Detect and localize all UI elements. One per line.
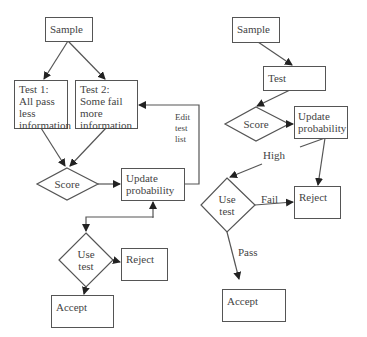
reject-label: Reject <box>299 191 327 203</box>
arrow-high-usetest <box>230 164 262 177</box>
test2-line3: more <box>80 107 133 119</box>
test2-line4: information <box>80 119 133 131</box>
update-line2: probability <box>126 184 180 196</box>
usetest-label-left: Use test <box>68 248 104 272</box>
high-label: High <box>263 149 285 161</box>
update-line1: Update <box>126 172 180 184</box>
usetest-label-right: Use test <box>209 193 245 217</box>
update-line1: Update <box>298 110 343 122</box>
arrow-update-usetest <box>86 217 153 231</box>
test1-line1: Test 1: <box>19 83 63 95</box>
score-label-left: Score <box>47 178 87 190</box>
sample-box-left: Sample <box>45 17 93 42</box>
update-box-left: Update probability <box>121 168 185 201</box>
arrow-sample-test2 <box>68 41 105 79</box>
accept-box-right: Accept <box>222 289 286 322</box>
arrow-usetest-reject <box>113 260 120 262</box>
pass-label: Pass <box>238 246 258 258</box>
update-box-right: Update probability <box>294 106 348 139</box>
test1-line3: less <box>19 107 63 119</box>
arrow-test1-score <box>41 128 65 166</box>
arrow-update-reject-right <box>318 138 325 185</box>
arrow-sample-test1 <box>44 41 68 79</box>
score-label-right: Score <box>236 118 276 130</box>
reject-label: Reject <box>126 253 154 265</box>
test2-line1: Test 2: <box>80 83 133 95</box>
test-box-right: Test <box>263 66 326 91</box>
test2-line2: Some fail <box>80 95 133 107</box>
arrow-usetest-accept <box>84 287 86 294</box>
test1-line4: information <box>19 119 63 131</box>
reject-box-right: Reject <box>294 186 341 219</box>
test-label: Test <box>268 72 286 84</box>
arrow-sample-test-right <box>258 42 292 65</box>
arrow-test2-score <box>70 128 106 166</box>
accept-label: Accept <box>227 295 258 307</box>
accept-label: Accept <box>56 301 87 313</box>
update-line2: probability <box>298 122 343 134</box>
sample-label: Sample <box>50 23 83 35</box>
accept-box-left: Accept <box>51 295 114 328</box>
arrow-test-score-right <box>257 90 290 106</box>
test1-box: Test 1: All pass less information <box>14 80 68 129</box>
test2-box: Test 2: Some fail more information <box>75 80 138 129</box>
edit-test-list-label: Edit test list <box>175 112 190 145</box>
line-update-high-1 <box>300 138 325 147</box>
test1-line2: All pass <box>19 95 63 107</box>
fail-label: Fail <box>261 193 278 205</box>
sample-box-right: Sample <box>232 17 280 43</box>
reject-box-left: Reject <box>121 248 168 281</box>
sample-label: Sample <box>237 23 270 35</box>
